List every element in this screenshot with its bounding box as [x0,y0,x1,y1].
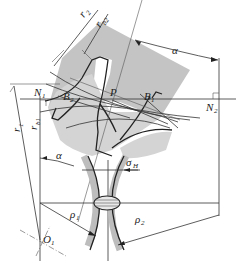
label-o1: O 1 [43,233,55,247]
svg-text:B: B [63,90,70,102]
svg-text:N: N [33,86,42,98]
label-n1: N 1 [33,86,46,100]
label-alpha-top: α [172,44,178,56]
svg-text:B: B [144,90,151,102]
svg-text:O: O [43,233,51,245]
svg-text:1: 1 [76,214,80,222]
svg-text:1: 1 [17,124,25,128]
label-n2: N 2 [205,101,218,115]
label-r2: r 2 [76,5,93,21]
svg-text:1: 1 [42,92,46,100]
svg-text:N: N [205,101,214,113]
svg-text:2: 2 [70,96,74,104]
label-rho1: ρ 1 [69,208,80,222]
svg-text:ρ: ρ [69,208,75,220]
svg-text:2: 2 [214,107,218,115]
svg-text:1: 1 [51,239,55,247]
svg-text:H: H [132,162,139,170]
svg-text:2: 2 [141,219,145,227]
label-alpha-bottom: α [56,149,62,161]
gear-contact-diagram: r 2 r b2 α N 1 B 2 P B 1 N 2 r 1 r b1 α … [0,0,246,261]
svg-text:b1: b1 [34,118,42,125]
svg-text:σ: σ [126,156,132,168]
label-p: P [109,86,117,98]
label-rho2: ρ 2 [134,213,145,227]
label-r1: r 1 [10,124,25,133]
rho1-line [40,203,96,236]
svg-text:1: 1 [151,96,155,104]
svg-text:ρ: ρ [134,213,140,225]
rho2-line [118,215,219,245]
